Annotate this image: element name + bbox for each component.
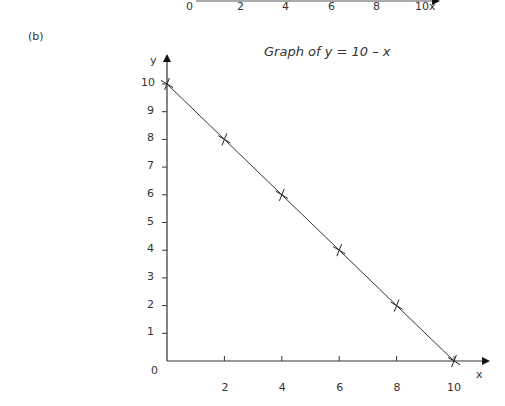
x-tick-label: 4: [279, 381, 286, 394]
y-tick-label: 6: [147, 187, 154, 200]
series-line: [167, 84, 454, 361]
x-tick-label: 8: [394, 381, 401, 394]
y-tick-label: 1: [147, 325, 154, 338]
origin-label: 0: [151, 364, 158, 377]
x-tick-label: 6: [336, 381, 343, 394]
y-axis-label: y: [150, 54, 157, 67]
y-axis-arrow: [163, 54, 171, 62]
chart-plot: [0, 0, 505, 406]
y-tick-label: 2: [147, 298, 154, 311]
y-tick-label: 8: [147, 131, 154, 144]
x-axis-arrow: [482, 357, 490, 365]
y-tick-label: 3: [147, 270, 154, 283]
x-axis-label: x: [476, 368, 483, 381]
x-tick-label: 2: [221, 381, 228, 394]
y-tick-label: 10: [141, 76, 155, 89]
y-tick-label: 7: [147, 159, 154, 172]
y-tick-label: 4: [147, 242, 154, 255]
x-tick-label: 10: [447, 381, 461, 394]
y-tick-label: 9: [147, 104, 154, 117]
y-tick-label: 5: [147, 215, 154, 228]
